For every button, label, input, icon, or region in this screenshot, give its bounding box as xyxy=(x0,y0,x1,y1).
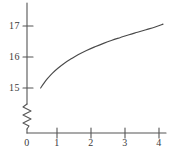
y-axis-break-zigzag xyxy=(23,104,31,129)
y-tick-label-15: 15 xyxy=(2,82,20,93)
x-tick-label-3: 3 xyxy=(119,137,131,148)
y-tick-label-16: 16 xyxy=(2,51,20,62)
data-curve xyxy=(41,24,163,88)
x-tick-label-0: 0 xyxy=(21,137,33,148)
chart-figure: 17 16 15 0 1 2 3 4 xyxy=(0,0,171,155)
plot-area xyxy=(0,0,171,155)
x-tick-label-4: 4 xyxy=(153,137,165,148)
x-tick-label-2: 2 xyxy=(85,137,97,148)
x-tick-label-1: 1 xyxy=(51,137,63,148)
y-tick-label-17: 17 xyxy=(2,20,20,31)
